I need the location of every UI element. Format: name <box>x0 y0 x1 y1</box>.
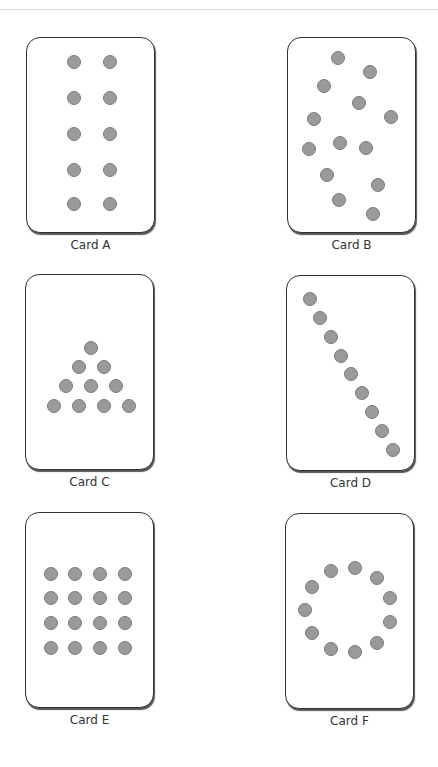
dot <box>324 642 338 656</box>
dot <box>68 641 82 655</box>
dot <box>93 567 107 581</box>
dot <box>348 561 362 575</box>
dot <box>103 91 117 105</box>
dot <box>97 360 111 374</box>
dot <box>305 626 319 640</box>
dot <box>333 136 347 150</box>
dot <box>67 55 81 69</box>
card-b <box>287 37 416 233</box>
dot <box>44 567 58 581</box>
dot <box>103 127 117 141</box>
dot <box>84 341 98 355</box>
dot <box>67 163 81 177</box>
dot <box>93 641 107 655</box>
top-divider <box>0 9 438 10</box>
dot <box>44 616 58 630</box>
dot <box>298 603 312 617</box>
card-e <box>25 512 154 708</box>
dot <box>103 163 117 177</box>
dot <box>384 110 398 124</box>
dot <box>68 616 82 630</box>
dot <box>313 311 327 325</box>
dot <box>324 564 338 578</box>
dot <box>352 96 366 110</box>
dot <box>68 567 82 581</box>
dot <box>344 367 358 381</box>
dot <box>317 79 331 93</box>
dot <box>383 591 397 605</box>
dot <box>366 207 380 221</box>
card-label: Card F <box>285 714 414 728</box>
dot <box>118 616 132 630</box>
dot <box>103 197 117 211</box>
dot <box>72 399 86 413</box>
card-label: Card D <box>286 476 415 490</box>
dot <box>67 127 81 141</box>
dot <box>320 168 334 182</box>
card-label: Card B <box>287 238 416 252</box>
dot <box>103 55 117 69</box>
dot <box>118 641 132 655</box>
dot <box>331 51 345 65</box>
dot <box>375 424 389 438</box>
dot <box>47 399 61 413</box>
dot <box>72 360 86 374</box>
dot <box>93 591 107 605</box>
dot <box>348 645 362 659</box>
dot <box>93 616 107 630</box>
dot <box>67 91 81 105</box>
dot <box>44 641 58 655</box>
card-label: Card E <box>25 713 154 727</box>
dot <box>383 615 397 629</box>
dot <box>370 636 384 650</box>
dot <box>334 349 348 363</box>
dot <box>363 65 377 79</box>
dot <box>118 591 132 605</box>
dot <box>370 571 384 585</box>
dot <box>305 580 319 594</box>
dot <box>109 379 123 393</box>
dot <box>97 399 111 413</box>
dot <box>371 178 385 192</box>
dot <box>386 443 400 457</box>
dot <box>84 379 98 393</box>
dot <box>324 330 338 344</box>
dot <box>303 292 317 306</box>
dot <box>355 386 369 400</box>
dot <box>122 399 136 413</box>
card-label: Card C <box>25 475 154 489</box>
dot <box>118 567 132 581</box>
dot <box>44 591 58 605</box>
card-a <box>26 37 155 233</box>
dot <box>332 193 346 207</box>
dot <box>302 142 316 156</box>
dot <box>365 405 379 419</box>
dot <box>59 379 73 393</box>
card-c <box>25 274 154 470</box>
card-label: Card A <box>26 238 155 252</box>
dot <box>359 141 373 155</box>
dot <box>307 112 321 126</box>
dot <box>67 197 81 211</box>
dot <box>68 591 82 605</box>
